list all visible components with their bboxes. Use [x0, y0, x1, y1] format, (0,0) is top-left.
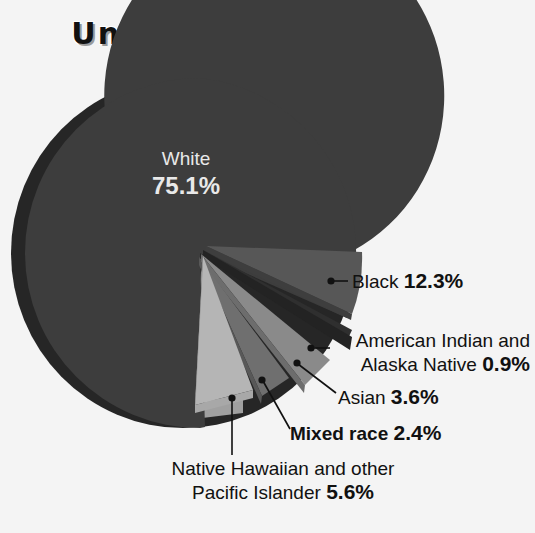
leader-dot-mixed-race [258, 376, 265, 383]
slice-label-mixed-race-value: 2.4% [394, 421, 442, 444]
slice-label-native-hawaiian-line2: Pacific Islander [192, 482, 321, 503]
slice-label-asian: Asian 3.6% [338, 385, 439, 410]
slice-white-bottom [25, 253, 200, 428]
slice-label-native-hawaiian-line1: Native Hawaiian and other [172, 458, 395, 479]
slice-label-american-indian: American Indian and Alaska Native 0.9% [330, 330, 530, 377]
slice-label-asian-name: Asian [338, 387, 386, 408]
slice-label-american-indian-line2: Alaska Native [361, 354, 477, 375]
slice-label-white: White 75.1% [126, 148, 246, 201]
slice-label-american-indian-line1: American Indian and [356, 330, 530, 351]
slice-label-asian-value: 3.6% [391, 385, 439, 408]
chart-canvas: United States [0, 0, 535, 533]
slice-label-native-hawaiian: Native Hawaiian and other Pacific Island… [158, 458, 408, 505]
slice-label-mixed-race-name: Mixed race [290, 423, 388, 444]
slice-label-black-value: 12.3% [404, 269, 464, 292]
slice-label-black: Black 12.3% [352, 269, 463, 294]
leader-dot-asian [293, 359, 300, 366]
slice-label-white-name: White [126, 148, 246, 170]
slice-label-mixed-race: Mixed race 2.4% [290, 421, 441, 446]
slice-label-black-name: Black [352, 271, 398, 292]
leader-dot-black [327, 277, 334, 284]
slice-label-white-value: 75.1% [126, 172, 246, 200]
leader-dot-native-hawaiian [228, 394, 235, 401]
slice-label-american-indian-value: 0.9% [482, 352, 530, 375]
pie-chart-graphic [0, 0, 535, 533]
leader-dot-american-indian [307, 344, 314, 351]
slice-label-native-hawaiian-value: 5.6% [326, 480, 374, 503]
